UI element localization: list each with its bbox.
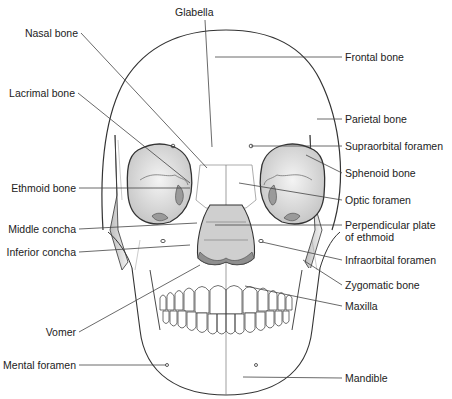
label-sphenoid-bone: Sphenoid bone [345, 167, 416, 179]
label-vomer: Vomer [46, 326, 76, 338]
label-maxilla: Maxilla [345, 300, 378, 312]
skull-diagram: Nasal boneLacrimal boneEthmoid boneMiddl… [0, 0, 452, 399]
label-nasal-bone: Nasal bone [25, 27, 78, 39]
label-supraorbital-foramen: Supraorbital foramen [345, 140, 443, 152]
left-orbit [127, 144, 192, 224]
label-glabella: Glabella [175, 6, 214, 18]
label-zygomatic-bone: Zygomatic bone [345, 279, 420, 291]
label-lacrimal-bone: Lacrimal bone [9, 87, 75, 99]
label-frontal-bone: Frontal bone [345, 51, 404, 63]
nasal-aperture [198, 205, 255, 265]
label-perpendicular-plate: Perpendicular plate of ethmoid [345, 219, 435, 243]
label-parietal-bone: Parietal bone [345, 113, 407, 125]
label-middle-concha: Middle concha [8, 223, 76, 235]
label-inferior-concha: Inferior concha [7, 246, 76, 258]
label-mandible: Mandible [345, 372, 388, 384]
label-ethmoid-bone: Ethmoid bone [11, 182, 76, 194]
label-optic-foramen: Optic foramen [345, 194, 411, 206]
label-mental-foramen: Mental foramen [3, 359, 76, 371]
label-infraorbital-foramen: Infraorbital foramen [345, 254, 436, 266]
right-orbit [260, 144, 325, 224]
